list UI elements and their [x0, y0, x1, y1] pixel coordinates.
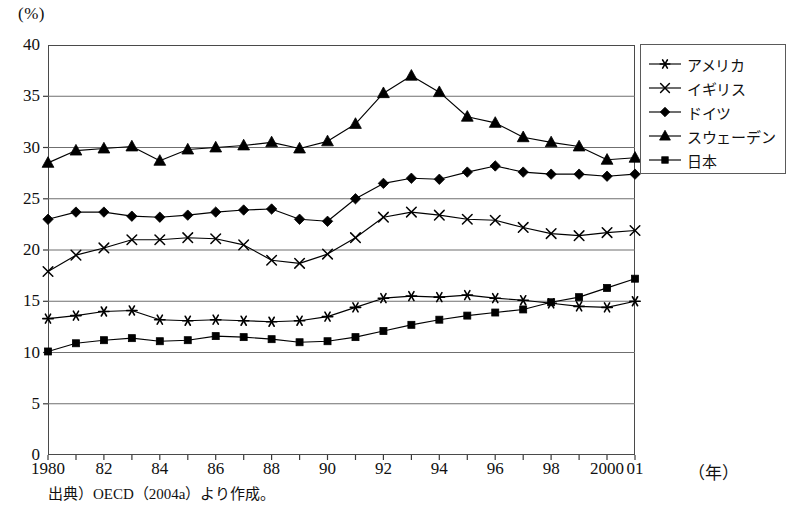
- data-point-diamond: [211, 207, 221, 217]
- series-3: [43, 161, 640, 227]
- square-marker: [128, 335, 135, 342]
- data-point-asterisk: [43, 314, 53, 323]
- diamond-marker: [574, 169, 584, 179]
- y-tick-label: 20: [0, 240, 40, 260]
- data-point-square: [100, 337, 107, 344]
- data-point-asterisk: [99, 307, 109, 316]
- square-marker: [72, 340, 79, 347]
- data-point-diamond: [574, 169, 584, 179]
- triangle-marker: [322, 135, 334, 146]
- diamond-marker: [630, 169, 640, 179]
- square-marker: [184, 337, 191, 344]
- square-marker: [156, 338, 163, 345]
- data-point-triangle: [378, 87, 390, 98]
- legend-item-3[interactable]: ドイツ: [647, 100, 779, 124]
- square-marker: [408, 321, 415, 328]
- data-point-square: [72, 340, 79, 347]
- square-marker: [352, 334, 359, 341]
- data-point-x: [71, 250, 81, 260]
- legend-item-5[interactable]: 日本: [647, 148, 779, 172]
- data-point-triangle: [433, 86, 445, 97]
- data-point-square: [576, 294, 583, 301]
- data-point-square: [184, 337, 191, 344]
- data-point-triangle: [517, 131, 529, 142]
- data-point-x: [239, 240, 249, 250]
- data-point-x: [518, 223, 528, 233]
- x-tick-label: 86: [207, 459, 224, 479]
- legend-label: アメリカ: [687, 54, 745, 75]
- diamond-marker: [490, 161, 500, 171]
- data-point-diamond: [99, 207, 109, 217]
- data-point-diamond: [630, 169, 640, 179]
- data-point-square: [548, 299, 555, 306]
- diamond-marker: [378, 178, 388, 188]
- data-point-square: [352, 334, 359, 341]
- data-point-triangle: [266, 136, 278, 147]
- data-point-x: [99, 243, 109, 253]
- data-point-square: [156, 338, 163, 345]
- data-point-diamond: [490, 161, 500, 171]
- diamond-marker: [99, 207, 109, 217]
- square-marker: [324, 338, 331, 345]
- x-tick-label: 01: [627, 459, 644, 479]
- data-point-asterisk: [602, 303, 612, 312]
- legend-marker-asterisk-icon: [647, 55, 683, 73]
- data-point-triangle: [126, 140, 138, 151]
- data-point-asterisk: [518, 296, 528, 305]
- data-point-square: [436, 316, 443, 323]
- diamond-marker: [183, 210, 193, 220]
- data-point-square: [45, 348, 52, 355]
- legend-sample-svg: [647, 79, 683, 97]
- legend-label: スウェーデン: [687, 126, 775, 147]
- x-tick-label: 92: [375, 459, 392, 479]
- data-point-triangle: [660, 130, 671, 140]
- data-point-square: [492, 309, 499, 316]
- data-point-asterisk: [238, 316, 248, 325]
- triangle-marker: [433, 86, 445, 97]
- square-marker: [604, 284, 611, 291]
- triangle-marker: [660, 130, 671, 140]
- data-point-diamond: [546, 169, 556, 179]
- diamond-marker: [518, 167, 528, 177]
- data-point-asterisk: [183, 316, 193, 325]
- data-point-diamond: [238, 205, 248, 215]
- data-point-diamond: [183, 210, 193, 220]
- square-marker: [464, 312, 471, 319]
- y-tick-label: 30: [0, 138, 40, 158]
- data-point-diamond: [266, 204, 276, 214]
- legend-label: ドイツ: [687, 102, 731, 123]
- chart-legend: アメリカイギリスドイツスウェーデン日本: [640, 44, 786, 174]
- x-tick-label: 82: [95, 459, 112, 479]
- triangle-marker: [154, 155, 166, 166]
- data-point-diamond: [518, 167, 528, 177]
- legend-sample-svg: [647, 103, 683, 121]
- diamond-marker: [266, 204, 276, 214]
- legend-sample-svg: [647, 151, 683, 169]
- legend-marker-square-icon: [647, 151, 683, 169]
- x-tick-label: 90: [319, 459, 336, 479]
- data-point-square: [128, 335, 135, 342]
- diamond-marker: [434, 174, 444, 184]
- triangle-marker: [378, 87, 390, 98]
- x-tick-label: 84: [151, 459, 168, 479]
- legend-item-1[interactable]: アメリカ: [647, 52, 779, 76]
- data-point-asterisk: [127, 306, 137, 315]
- square-marker: [548, 299, 555, 306]
- legend-item-4[interactable]: スウェーデン: [647, 124, 779, 148]
- diamond-marker: [71, 207, 81, 217]
- square-marker: [100, 337, 107, 344]
- data-point-asterisk: [434, 293, 444, 302]
- data-point-asterisk: [322, 312, 332, 321]
- legend-item-2[interactable]: イギリス: [647, 76, 779, 100]
- data-point-diamond: [602, 171, 612, 181]
- square-marker: [492, 309, 499, 316]
- y-tick-label: 15: [0, 291, 40, 311]
- square-marker: [576, 294, 583, 301]
- data-point-x: [351, 233, 361, 243]
- data-point-square: [632, 275, 639, 282]
- triangle-marker: [517, 131, 529, 142]
- data-point-diamond: [294, 214, 304, 224]
- diamond-marker: [238, 205, 248, 215]
- data-point-triangle: [42, 157, 54, 168]
- triangle-marker: [126, 140, 138, 151]
